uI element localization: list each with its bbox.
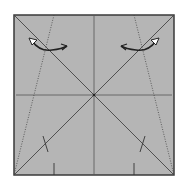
center-point bbox=[93, 94, 96, 97]
origami-diagram bbox=[0, 0, 180, 187]
